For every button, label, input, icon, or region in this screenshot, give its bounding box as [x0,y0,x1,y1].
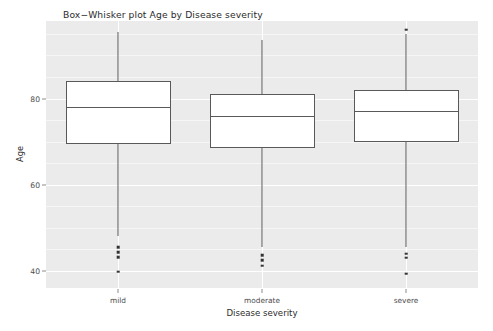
outlier-point [261,254,264,257]
box-mild [66,81,171,143]
outlier-point [405,28,408,31]
box-severe [354,90,459,142]
x-axis-tick-mark [118,289,119,293]
y-axis-tick-label: 60 [30,180,40,189]
outlier-point [405,272,408,275]
x-axis-tick-label-mild: mild [110,296,126,305]
x-axis-title: Disease severity [226,308,297,318]
outlier-point [261,264,264,267]
outlier-point [261,259,264,262]
outlier-point [117,246,120,249]
y-axis-tick-mark [42,270,46,271]
x-axis-tick-label-moderate: moderate [244,296,280,305]
outlier-point [117,251,120,254]
outlier-point [405,252,408,255]
y-axis-tick-mark [42,98,46,99]
y-axis-tick-mark [42,184,46,185]
whisker-lower [118,144,119,237]
whisker-lower [262,148,263,247]
outlier-point [117,256,120,259]
whisker-upper [118,32,119,82]
y-axis-tick-label: 40 [30,266,40,275]
box-moderate [210,94,315,148]
whisker-upper [262,40,263,94]
y-axis-title: Age [15,134,25,174]
outlier-point [117,270,120,273]
whisker-lower [406,142,407,248]
median-line-severe [354,111,459,112]
box-whisker-chart: Box−Whisker plot Age by Disease severity… [0,0,493,331]
median-line-moderate [210,116,315,117]
y-axis-tick-label: 80 [30,94,40,103]
median-line-mild [66,107,171,108]
outlier-point [405,257,408,260]
chart-title: Box−Whisker plot Age by Disease severity [63,9,263,20]
x-axis-tick-mark [406,289,407,293]
x-axis-tick-label-severe: severe [394,296,419,305]
x-axis-tick-mark [262,289,263,293]
whisker-upper [406,34,407,90]
